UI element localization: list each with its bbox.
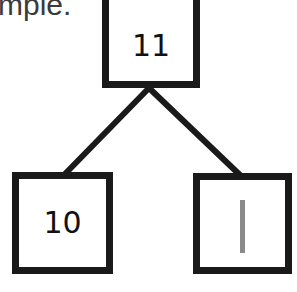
tally-mark-icon	[240, 200, 245, 253]
root-node-label: 11	[132, 31, 170, 61]
connector-right	[149, 88, 241, 176]
connector-left	[64, 88, 149, 175]
left-child-node-label: 10	[43, 208, 81, 238]
left-child-node-box: 10	[12, 172, 113, 274]
root-node-box: 11	[102, 0, 200, 88]
right-child-node-box	[193, 173, 292, 274]
